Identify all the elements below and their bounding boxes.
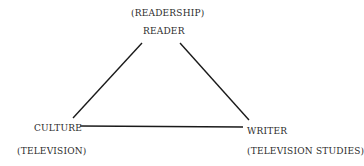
edge-culture-reader — [73, 43, 142, 118]
culture-label: CULTURE — [34, 124, 82, 133]
edge-reader-writer — [180, 43, 249, 120]
edge-culture-writer — [80, 126, 243, 127]
writer-label: WRITER — [247, 127, 287, 136]
culture-sublabel: (TELEVISION) — [17, 147, 87, 156]
writer-sublabel: (TELEVISION STUDIES) — [247, 147, 364, 156]
reader-label: READER — [143, 27, 185, 36]
reader-sublabel: (READERSHIP) — [131, 9, 204, 18]
